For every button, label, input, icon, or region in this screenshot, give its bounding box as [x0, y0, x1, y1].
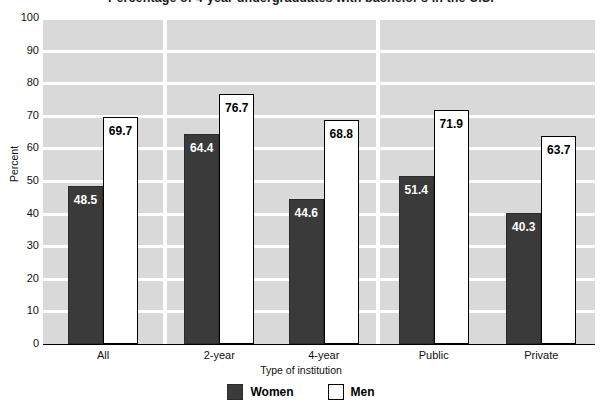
bar-women: 44.6 — [289, 199, 324, 344]
y-axis-tick-label: 90 — [3, 45, 39, 56]
gridline — [380, 50, 595, 53]
gridline — [380, 115, 595, 118]
gridline — [380, 82, 595, 85]
bar-men: 76.7 — [219, 94, 254, 344]
bar-value-label: 48.5 — [74, 193, 97, 207]
gridline — [167, 82, 376, 85]
y-axis-title: Percent — [8, 114, 20, 214]
y-axis-tick-label: 20 — [3, 273, 39, 284]
bar-men: 69.7 — [103, 117, 138, 344]
gridline — [43, 50, 163, 53]
bar-value-label: 63.7 — [547, 143, 570, 157]
bar-men: 71.9 — [434, 110, 469, 344]
gridline — [43, 82, 163, 85]
legend-label: Men — [351, 385, 375, 399]
y-axis-tick-label: 30 — [3, 240, 39, 251]
chart-panel: 64.476.744.668.8 — [167, 18, 376, 344]
bar-value-label: 44.6 — [295, 206, 318, 220]
bar-women: 48.5 — [68, 186, 103, 344]
gridline — [167, 18, 376, 20]
gridline — [167, 50, 376, 53]
bar-women: 40.3 — [506, 213, 541, 344]
bar-women: 51.4 — [399, 176, 434, 344]
bar-value-label: 51.4 — [405, 183, 428, 197]
y-axis-tick-label: 0 — [3, 338, 39, 349]
y-axis-tick-label: 100 — [3, 12, 39, 23]
legend-swatch-men — [328, 384, 344, 400]
gridline — [380, 18, 595, 20]
x-axis-tick-label: Private — [491, 349, 591, 361]
legend-swatch-women — [227, 384, 243, 400]
gridline — [167, 115, 376, 118]
gridline — [43, 18, 163, 20]
chart-panel: 51.471.940.363.7 — [380, 18, 595, 344]
x-axis-tick-label: 4-year — [274, 349, 374, 361]
y-axis-tick-label: 10 — [3, 305, 39, 316]
chart-legend: WomenMen — [0, 384, 602, 400]
x-axis-tick-label: 2-year — [169, 349, 269, 361]
x-axis-tick-label: Public — [384, 349, 484, 361]
legend-item-women: Women — [227, 384, 293, 400]
bar-men: 68.8 — [324, 120, 359, 344]
bar-value-label: 40.3 — [512, 220, 535, 234]
bar-chart-figure: Percentage of 4-year undergraduates with… — [0, 0, 602, 412]
bar-women: 64.4 — [184, 134, 219, 344]
chart-panel: 48.569.7 — [43, 18, 163, 344]
legend-label: Women — [250, 385, 293, 399]
legend-item-men: Men — [328, 384, 375, 400]
x-axis-title: Type of institution — [0, 364, 602, 376]
bar-value-label: 69.7 — [109, 124, 132, 138]
bar-value-label: 76.7 — [225, 101, 248, 115]
bar-value-label: 71.9 — [440, 117, 463, 131]
bar-value-label: 64.4 — [190, 141, 213, 155]
chart-title: Percentage of 4-year undergraduates with… — [0, 0, 602, 5]
y-axis-tick-label: 80 — [3, 77, 39, 88]
bar-value-label: 68.8 — [330, 127, 353, 141]
x-axis-line — [43, 344, 595, 345]
plot-area: 48.569.764.476.744.668.851.471.940.363.7 — [43, 18, 595, 344]
bar-men: 63.7 — [541, 136, 576, 344]
x-axis-tick-label: All — [53, 349, 153, 361]
